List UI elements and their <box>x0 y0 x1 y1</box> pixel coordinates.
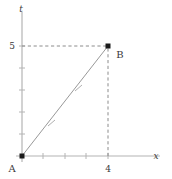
point-b-label: B <box>116 49 123 60</box>
point-b-marker <box>106 44 111 49</box>
segment-ab-hatch-marks <box>48 85 82 126</box>
segment-ab <box>22 46 108 156</box>
point-a-label: A <box>7 163 16 174</box>
y-axis-label: t <box>19 4 23 14</box>
x-tick-label-4: 4 <box>105 164 111 174</box>
x-axis-label: x <box>153 151 158 161</box>
y-tick-label-5: 5 <box>9 41 15 51</box>
coordinate-diagram: t x 5 4 A B <box>0 0 172 179</box>
point-a-marker <box>20 154 25 159</box>
hatch-mark-2 <box>75 85 82 91</box>
diagram-canvas: t x 5 4 A B <box>0 0 172 179</box>
